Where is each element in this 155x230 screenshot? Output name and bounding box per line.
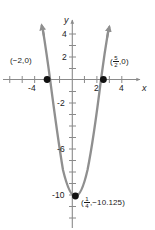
vertex-point <box>72 193 79 200</box>
x-axis-label: x <box>142 84 147 93</box>
left-intercept-label: (−2, 0) <box>10 57 32 65</box>
y-axis-label: y <box>64 16 69 25</box>
x-axis <box>3 76 140 83</box>
left-label-x: −2 <box>13 57 22 65</box>
right-intercept-point <box>100 76 107 83</box>
right-label-fraction: 52 <box>113 55 118 68</box>
y-tick-label-neg2: -2 <box>57 99 65 108</box>
vertex-label-close-paren: ) <box>122 199 125 207</box>
y-tick-label-neg10: -10 <box>52 191 65 200</box>
parabola-curve <box>42 25 110 196</box>
x-tick-label-neg4: -4 <box>28 84 36 93</box>
vertex-label: (14, −10.125) <box>81 196 125 209</box>
right-label-denominator: 2 <box>113 61 118 68</box>
y-tick-label-4: 4 <box>62 30 67 39</box>
vertex-label-y: −10.125 <box>92 199 122 207</box>
vertex-label-denominator: 4 <box>84 202 89 209</box>
left-intercept-point <box>44 76 51 83</box>
right-intercept-label: (52, 0) <box>110 55 129 68</box>
plot-canvas <box>0 0 155 230</box>
parabola-graph-figure: -4 2 4 4 2 -2 -6 -10 y x (−2, 0) (52, 0)… <box>0 0 155 230</box>
y-tick-label-neg6: -6 <box>57 145 65 154</box>
x-tick-label-2: 2 <box>94 84 99 93</box>
left-label-close-paren: ) <box>29 57 32 65</box>
right-branch-arrow <box>107 27 109 39</box>
x-tick-label-4: 4 <box>119 84 124 93</box>
y-tick-label-2: 2 <box>62 53 67 62</box>
right-label-numerator: 5 <box>113 55 118 61</box>
right-label-close-paren: ) <box>126 58 129 66</box>
vertex-label-fraction: 14 <box>84 196 89 209</box>
vertex-label-numerator: 1 <box>84 196 89 202</box>
left-branch-arrow <box>42 25 44 36</box>
